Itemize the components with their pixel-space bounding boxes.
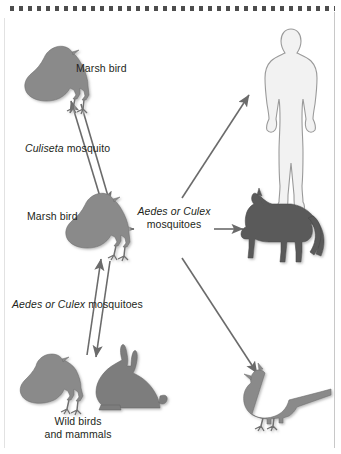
label-aedes-suffix-middle: mosquitoes [147,218,202,230]
pheasant-silhouette [244,363,331,431]
arrow-vector-to-pheasant [182,258,257,373]
rabbit-silhouette [96,344,167,410]
label-wild-line2: and mammals [44,428,111,440]
label-aedes-culex-mosquitoes-lower: Aedes or Culex mosquitoes [12,298,143,311]
marsh-bird-middle-silhouette [66,193,130,261]
label-aedes-culex-mosquitoes-middle: Aedes or Culexmosquitoes [137,205,211,231]
label-culiseta-mosquito: Culiseta mosquito [25,142,110,155]
label-culiseta-genus: Culiseta [25,142,64,154]
human-silhouette [265,29,317,212]
arrow-vector-to-human [182,95,249,198]
label-aedes-culex-genus-lower: Aedes or Culex [12,298,85,310]
label-marsh-bird-top: Marsh bird [76,62,127,75]
label-aedes-suffix-lower: mosquitoes [85,298,143,310]
wild-bird-silhouette [20,354,83,415]
label-culiseta-suffix: mosquito [64,142,110,154]
label-wild-birds-and-mammals: Wild birdsand mammals [32,415,124,440]
label-marsh-bird-middle: Marsh bird [27,210,78,223]
label-wild-line1: Wild birds [54,415,101,427]
figure-frame: Marsh bird Culiseta mosquito Marsh bird … [0,0,341,454]
label-aedes-culex-genus-middle: Aedes or Culex [137,205,210,217]
marsh-bird-top-silhouette [25,46,89,114]
